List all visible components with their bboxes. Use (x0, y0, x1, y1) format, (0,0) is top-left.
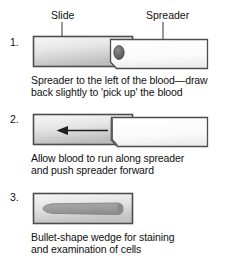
spreader-shape-step1 (111, 40, 208, 69)
step-2-illustration (34, 115, 208, 147)
blood-smear-bullet-shape-step3 (43, 203, 123, 215)
step-number-3: 3. (10, 191, 19, 203)
step-2-caption: Allow blood to run along spreader and pu… (31, 152, 223, 177)
step-number-1: 1. (10, 36, 19, 48)
callout-label-slide: Slide (51, 9, 74, 21)
step-number-2: 2. (10, 113, 19, 125)
blood-smear-procedure-figure: Slide Spreader 1. 2. 3. Spreader to the … (0, 0, 225, 263)
step-3-caption: Bullet-shape wedge for staining and exam… (31, 231, 223, 256)
step-1-illustration (34, 37, 208, 69)
step-1-caption: Spreader to the left of the blood—draw b… (31, 74, 223, 99)
blood-drop-step1 (114, 46, 124, 60)
callout-label-spreader: Spreader (146, 9, 189, 21)
step-3-illustration (34, 194, 133, 224)
spreader-shape-step2 (112, 118, 208, 147)
diagram-artwork (0, 0, 225, 263)
